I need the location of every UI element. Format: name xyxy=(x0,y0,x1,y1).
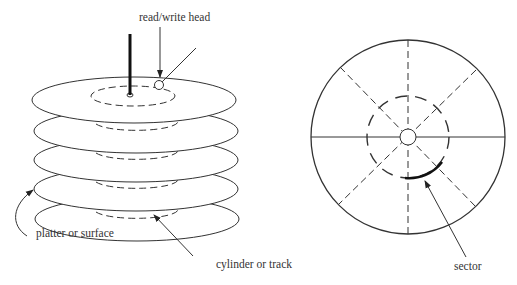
platter-stack xyxy=(32,77,239,241)
platter-top-view xyxy=(311,40,505,234)
label-cylinder: cylinder or track xyxy=(216,258,292,270)
disk-diagram xyxy=(0,0,517,285)
platter-1 xyxy=(32,77,236,123)
label-sector: sector xyxy=(454,260,481,272)
platter-arrow xyxy=(16,190,33,236)
sector-arc xyxy=(405,162,442,178)
label-read-write-head: read/write head xyxy=(139,11,210,23)
label-platter: platter or surface xyxy=(36,227,114,239)
